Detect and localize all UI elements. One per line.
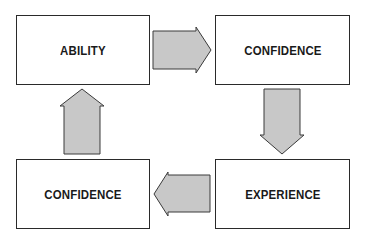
arrow-right-icon bbox=[153, 27, 211, 73]
arrow-left-icon bbox=[154, 172, 210, 216]
arrow-down-icon bbox=[260, 89, 304, 154]
arrow-up-icon bbox=[60, 89, 104, 154]
arrows-layer bbox=[0, 0, 365, 241]
